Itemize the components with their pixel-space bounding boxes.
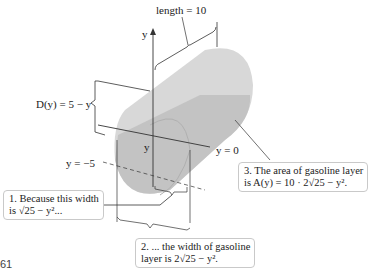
callout-1-line1: 1. Because this width [9,193,99,205]
y-axis-label: y [142,28,148,40]
depth-label: D(y) = 5 − y [36,98,91,110]
y-minus5-label: y = −5 [66,157,95,169]
callout-2-line2: layer is 2√25 − y². [141,253,250,265]
callout-3-line2: is A(y) = 10 · 2√25 − y². [244,177,363,189]
y-axis-arrow-icon [150,28,156,35]
callout-3: 3. The area of gasoline layer is A(y) = … [238,162,368,192]
y-inside-label: y [144,141,150,153]
cylinder [114,48,253,195]
callout-3-line1: 3. The area of gasoline layer [244,165,363,177]
callout-2: 2. ... the width of gasoline layer is 2√… [135,238,255,268]
length-label: length = 10 [156,4,206,16]
depth-brace [91,81,105,135]
y-zero-label: y = 0 [216,144,239,156]
callout-1-line2: is √25 − y²... [9,205,99,217]
callout-1: 1. Because this width is √25 − y²... [3,190,104,220]
figure-number: 61 [0,258,12,270]
callout-2-line1: 2. ... the width of gasoline [141,241,250,253]
